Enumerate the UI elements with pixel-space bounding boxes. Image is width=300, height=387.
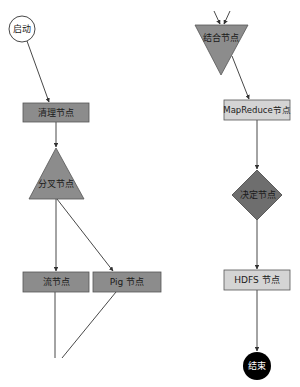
end-node: 结束 — [243, 352, 271, 380]
fork-node: 分叉节点 — [29, 148, 84, 199]
edge-pig-to-join — [62, 292, 116, 358]
hdfs-label: HDFS 节点 — [234, 275, 279, 285]
edge-join-to-mapreduce — [232, 56, 249, 99]
stream-label: 流节点 — [43, 276, 70, 287]
fork-label: 分叉节点 — [38, 179, 74, 189]
join-label: 结合节点 — [203, 32, 239, 43]
fork-triangle-icon — [29, 148, 84, 199]
pig-label: Pig 节点 — [110, 277, 144, 287]
pig-node: Pig 节点 — [93, 272, 161, 292]
workflow-diagram: 启动 清理节点 分叉节点 流节点 Pig 节点 结合节点 — [0, 0, 300, 387]
stream-node: 流节点 — [23, 272, 89, 292]
decision-node: 决定节点 — [232, 170, 282, 220]
cleanup-node: 清理节点 — [23, 103, 89, 122]
edge-start-to-cleanup — [27, 41, 49, 102]
start-node: 启动 — [9, 16, 35, 42]
join-node: 结合节点 — [195, 25, 248, 75]
mapreduce-label: MapReduce节点 — [223, 105, 290, 115]
start-label: 启动 — [13, 23, 31, 34]
decision-label: 决定节点 — [240, 189, 276, 200]
edge-stream-into-join — [214, 11, 220, 24]
end-label: 结束 — [248, 360, 266, 371]
edge-pig-into-join — [224, 11, 230, 24]
hdfs-node: HDFS 节点 — [224, 270, 290, 290]
mapreduce-node: MapReduce节点 — [223, 100, 290, 120]
diagram-svg: 启动 清理节点 分叉节点 流节点 Pig 节点 结合节点 — [0, 0, 300, 387]
cleanup-label: 清理节点 — [38, 107, 74, 118]
edge-fork-to-pig — [57, 199, 113, 271]
